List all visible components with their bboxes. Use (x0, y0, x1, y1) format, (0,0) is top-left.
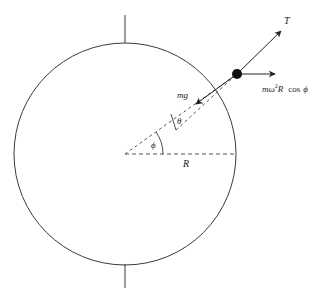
tension-label: T (284, 15, 291, 26)
weight-label: mg (177, 90, 188, 100)
radius-label: R (182, 158, 189, 169)
phi-angle-arc (156, 132, 163, 154)
mass-point (232, 69, 242, 79)
tension-arrow (237, 31, 281, 74)
free-body-diagram: T mω2Rcosϕ mg θ ϕ R (0, 0, 336, 297)
phi-label: ϕ (151, 140, 156, 150)
theta-angle-bracket (171, 114, 176, 130)
theta-label: θ (177, 116, 182, 126)
plumb-line-dashed-at-theta (176, 74, 237, 130)
weight-arrow (196, 74, 237, 104)
centrifugal-label: mω2Rcosϕ (262, 83, 308, 94)
